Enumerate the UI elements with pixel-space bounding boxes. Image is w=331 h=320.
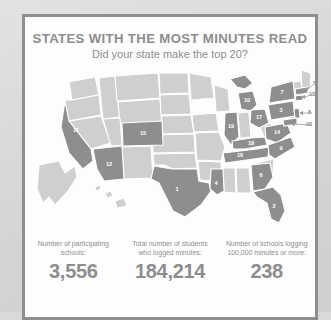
page-title: STATES WITH THE MOST MINUTES READ (25, 31, 315, 46)
rank-label-california: 11 (73, 127, 79, 133)
stat-schools-100k: Number of schools logging 100,000 minute… (218, 239, 315, 283)
state-michigan (230, 75, 253, 89)
state-iowa (192, 113, 219, 132)
poster-inner: STATES WITH THE MOST MINUTES READ Did yo… (25, 17, 315, 317)
stat-label-participating-schools: Number of participating schools: (28, 239, 119, 257)
rank-label-illinois: 19 (228, 123, 234, 129)
state-hawaii-3 (115, 198, 127, 208)
state-hawaii-2 (105, 191, 113, 198)
rank-label-pennsylvania: 3 (279, 107, 282, 113)
state-montana (115, 73, 160, 101)
state-indiana (238, 112, 251, 138)
state-missouri (195, 132, 225, 161)
map-container: 11 12 15 1 4 19 10 (25, 65, 315, 235)
callout-label-massachusetts: 5 (313, 80, 315, 86)
us-map-svg: 11 12 15 1 4 19 10 (25, 65, 315, 235)
state-alaska (37, 161, 77, 205)
state-south-dakota (160, 94, 191, 115)
state-nebraska (161, 115, 194, 134)
stat-label-schools-100k: Number of schools logging 100,000 minute… (221, 239, 312, 257)
stat-label-total-students: Total number of students who logged minu… (125, 239, 216, 257)
stat-value-participating-schools: 3,556 (28, 260, 119, 283)
stat-total-students: Total number of students who logged minu… (122, 239, 219, 283)
poster-frame: STATES WITH THE MOST MINUTES READ Did yo… (22, 14, 318, 320)
state-hawaii-1 (95, 185, 101, 191)
state-florida (253, 187, 285, 223)
state-mississippi (223, 168, 236, 193)
rank-label-ohio: 17 (256, 114, 262, 120)
rank-label-michigan: 10 (244, 97, 250, 103)
state-new-mexico (122, 146, 153, 179)
rank-label-north-carolina: 9 (279, 145, 282, 151)
rank-label-tennessee: 16 (237, 152, 243, 158)
stat-value-total-students: 184,214 (125, 260, 216, 283)
state-north-dakota (159, 73, 189, 94)
rank-label-new-york: 7 (280, 89, 283, 95)
callout-label-new-jersey: 8 (308, 109, 311, 115)
state-minnesota (189, 73, 214, 100)
rank-label-colorado: 15 (140, 130, 146, 136)
summary-stats: Number of participating schools: 3,556 T… (25, 239, 315, 309)
state-tennessee (223, 147, 269, 163)
rank-label-kentucky: 18 (248, 140, 254, 146)
state-wyoming (118, 99, 162, 124)
rank-label-florida: 2 (272, 203, 275, 209)
callout-label-maryland: 20 (306, 121, 312, 127)
state-alabama (236, 168, 251, 193)
state-connecticut (295, 95, 303, 101)
rank-label-arizona: 12 (106, 161, 112, 167)
rank-label-georgia: 6 (259, 172, 262, 178)
page-subtitle: Did your state make the top 20? (25, 48, 315, 60)
rank-label-texas: 1 (175, 186, 178, 192)
stat-value-schools-100k: 238 (221, 260, 312, 283)
rank-label-virginia: 14 (274, 129, 281, 135)
state-wisconsin (214, 85, 230, 112)
stat-participating-schools: Number of participating schools: 3,556 (25, 239, 122, 283)
callout-label-connecticut: 13 (309, 91, 315, 97)
state-new-jersey (294, 108, 300, 119)
